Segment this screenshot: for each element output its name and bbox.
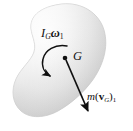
center-of-mass-point xyxy=(63,56,68,61)
rigid-body-shape xyxy=(13,4,106,117)
figure-container: IGω1 G m(vG)1 xyxy=(0,0,133,131)
rigid-body-diagram-svg xyxy=(0,0,133,131)
